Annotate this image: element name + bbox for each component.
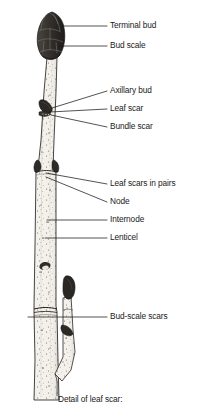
label-bud-scale-scars: Bud-scale scars: [110, 312, 168, 321]
leader-bundle-scar: [51, 115, 107, 127]
leader-leaf-scar: [50, 109, 107, 112]
node-bud-left: [34, 160, 41, 172]
branch-tip-bud: [63, 276, 75, 299]
label-axillary-bud: Axillary bud: [110, 86, 152, 95]
label-bud-scale: Bud scale: [110, 41, 146, 50]
node-bud-right: [52, 160, 59, 172]
label-internode: Internode: [110, 215, 144, 224]
label-lenticel: Lenticel: [110, 233, 138, 242]
label-terminal-bud: Terminal bud: [110, 21, 156, 30]
label-leaf-scar: Leaf scar: [110, 104, 143, 113]
figure-caption: Detail of leaf scar:: [58, 394, 122, 404]
label-node: Node: [110, 197, 129, 206]
leader-axillary-bud: [52, 91, 107, 108]
twig-anatomy-diagram: [0, 0, 213, 415]
terminal-bud-shape: [37, 12, 65, 59]
label-bundle-scar: Bundle scar: [110, 122, 153, 131]
label-leaf-scars-in-pairs: Leaf scars in pairs: [110, 179, 175, 188]
